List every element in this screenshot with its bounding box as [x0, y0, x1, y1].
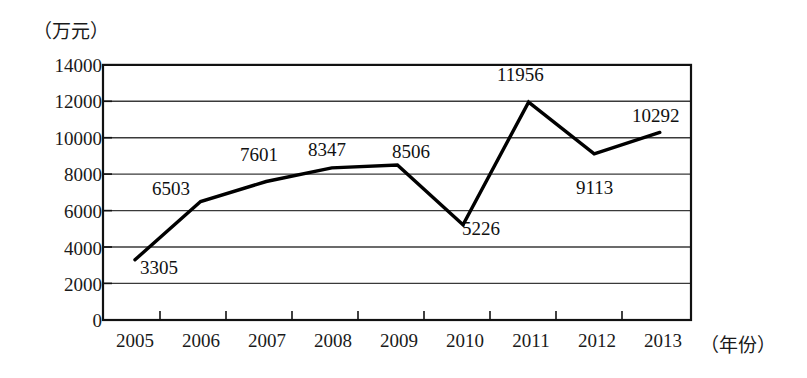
plot-area — [0, 0, 807, 378]
gridlines — [103, 101, 691, 283]
y-axis-ticks — [103, 65, 112, 284]
line-chart: （万元） （年份） 14000 12000 10000 8000 6000 40… — [0, 0, 807, 378]
plot-frame — [103, 65, 691, 320]
data-series-line — [135, 102, 660, 260]
x-axis-ticks — [160, 311, 622, 320]
